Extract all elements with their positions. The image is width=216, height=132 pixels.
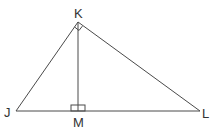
label-j: J — [4, 105, 11, 120]
segment-jk — [16, 22, 78, 111]
label-k: K — [74, 6, 83, 21]
label-l: L — [202, 106, 209, 121]
label-m: M — [73, 115, 84, 130]
triangle-diagram: K J L M — [0, 0, 216, 132]
segment-kl — [78, 22, 200, 111]
